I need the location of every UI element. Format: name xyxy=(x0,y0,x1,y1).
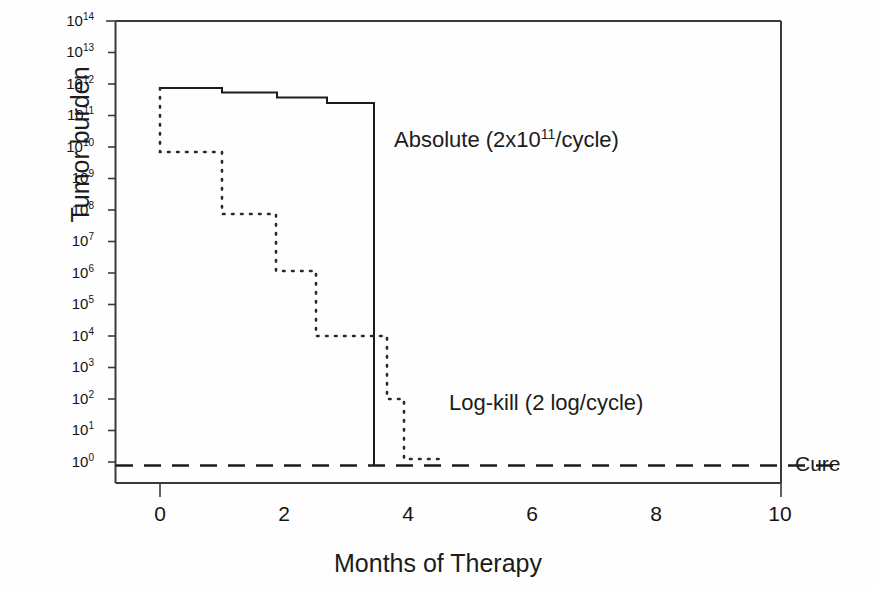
x-tick-label-6: 6 xyxy=(512,503,552,524)
y-tick-label-7: 107 xyxy=(38,233,94,248)
figure-canvas: Tumor burden 1014 1013 1012 1011 1010 10… xyxy=(0,0,876,590)
x-tick-label-2: 2 xyxy=(264,503,304,524)
y-tick-label-4: 104 xyxy=(38,328,94,343)
y-tick-label-13: 1013 xyxy=(38,44,94,59)
y-tick-label-12: 1012 xyxy=(38,76,94,91)
y-tick-label-3: 103 xyxy=(38,359,94,374)
y-tick-label-8: 108 xyxy=(38,202,94,217)
y-tick-label-6: 106 xyxy=(38,265,94,280)
x-tick-label-4: 4 xyxy=(388,503,428,524)
chart-plot xyxy=(0,0,876,590)
y-tick-label-14: 1014 xyxy=(38,13,94,28)
x-tick-label-0: 0 xyxy=(140,503,180,524)
log-kill-series-label: Log-kill (2 log/cycle) xyxy=(449,392,643,414)
x-axis-title: Months of Therapy xyxy=(0,549,876,578)
absolute-series-label: Absolute (2x1011/cycle) xyxy=(394,129,619,151)
x-tick-label-10: 10 xyxy=(760,503,800,524)
y-tick-label-1: 101 xyxy=(38,422,94,437)
y-tick-label-10: 1010 xyxy=(38,139,94,154)
x-tick-label-8: 8 xyxy=(636,503,676,524)
absolute-curve xyxy=(160,88,374,465)
cure-label: Cure xyxy=(795,452,841,476)
y-tick-label-2: 102 xyxy=(38,391,94,406)
x-axis-ticks xyxy=(160,483,781,497)
y-tick-label-5: 105 xyxy=(38,296,94,311)
y-tick-label-9: 109 xyxy=(38,170,94,185)
y-tick-label-11: 1011 xyxy=(38,107,94,122)
y-tick-label-0: 100 xyxy=(38,454,94,469)
